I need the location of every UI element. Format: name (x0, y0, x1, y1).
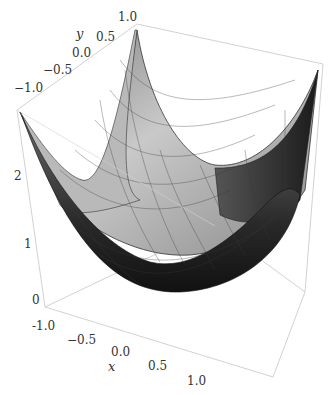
x-tick: −0.5 (67, 334, 96, 346)
x-tick: 1.0 (187, 375, 206, 387)
y-tick: −1.0 (14, 82, 43, 94)
y-tick: 0.5 (96, 31, 115, 43)
surface-plot (0, 0, 336, 395)
y-tick: −0.5 (43, 64, 72, 76)
z-tick: 2 (14, 170, 22, 182)
x-tick: 0.0 (111, 346, 130, 358)
x-axis-label: x (108, 360, 115, 373)
z-tick: 0 (32, 294, 40, 306)
x-tick: -1.0 (32, 320, 55, 332)
y-tick: 1.0 (118, 11, 137, 23)
y-tick: 0.0 (72, 47, 91, 59)
z-tick: 1 (24, 238, 32, 250)
x-tick: 0.5 (148, 360, 167, 372)
y-axis-label: y (76, 27, 83, 40)
